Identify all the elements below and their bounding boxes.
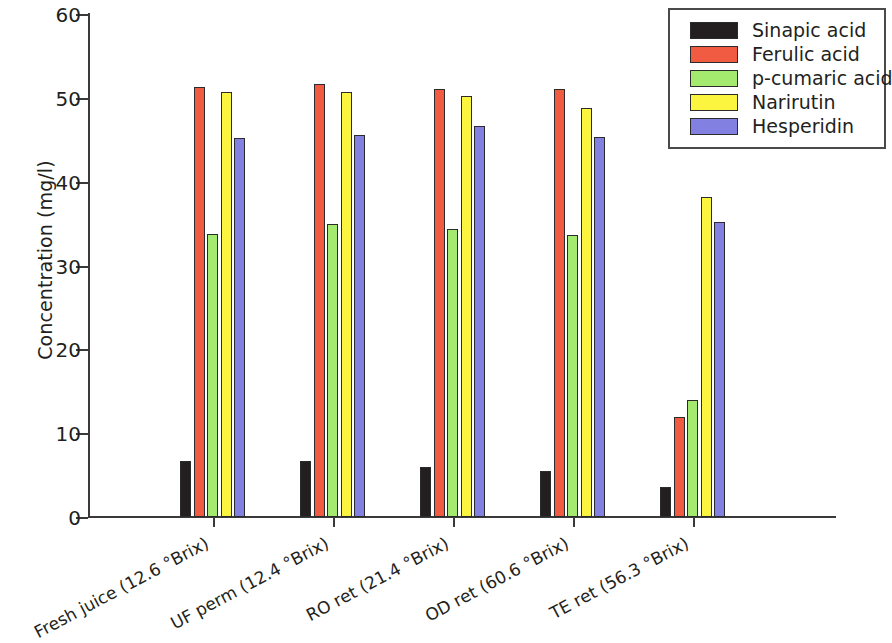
- y-axis-tick-label: 20: [56, 340, 81, 360]
- x-axis-tick-mark: [333, 517, 335, 527]
- bar: [674, 417, 685, 517]
- bar: [540, 471, 551, 517]
- bar: [234, 138, 245, 517]
- bar: [687, 400, 698, 517]
- bar: [461, 96, 472, 517]
- legend-item-label: Ferulic acid: [752, 45, 860, 64]
- bar: [567, 235, 578, 517]
- x-axis-tick-mark: [213, 517, 215, 527]
- legend-color-swatch: [690, 22, 738, 39]
- legend-item-label: Sinapic acid: [752, 21, 866, 40]
- bar-chart-figure: Concentration (mg/l) 0102030405060 Fresh…: [0, 0, 892, 643]
- bar: [660, 487, 671, 517]
- bar: [474, 126, 485, 518]
- chart-legend: Sinapic acidFerulic acidp-cumaric acidNa…: [668, 8, 886, 149]
- bar: [300, 461, 311, 517]
- bar: [714, 222, 725, 517]
- bar: [221, 92, 232, 517]
- y-axis-tick-label: 60: [56, 5, 81, 25]
- bar: [447, 229, 458, 517]
- legend-item: Sinapic acid: [690, 18, 884, 42]
- x-axis-tick-mark: [693, 517, 695, 527]
- y-axis-tick-label: 10: [56, 424, 81, 444]
- bar: [194, 87, 205, 517]
- bar: [327, 224, 338, 517]
- x-axis-tick-mark: [573, 517, 575, 527]
- bar: [180, 461, 191, 517]
- y-axis-tick-label: 0: [68, 508, 81, 528]
- legend-color-swatch: [690, 46, 738, 63]
- bar: [554, 89, 565, 517]
- bar: [341, 92, 352, 517]
- bar: [701, 197, 712, 517]
- bar: [354, 135, 365, 517]
- x-axis-tick-mark: [453, 517, 455, 527]
- bar: [207, 234, 218, 517]
- bar: [420, 467, 431, 517]
- legend-item: Hesperidin: [690, 114, 884, 138]
- legend-item: Narirutin: [690, 90, 884, 114]
- legend-item-label: Hesperidin: [752, 117, 854, 136]
- y-axis-tick-label: 50: [56, 89, 81, 109]
- legend-color-swatch: [690, 70, 738, 87]
- legend-item: Ferulic acid: [690, 42, 884, 66]
- legend-item-label: p-cumaric acid: [752, 69, 892, 88]
- legend-item: p-cumaric acid: [690, 66, 884, 90]
- bar: [581, 108, 592, 517]
- legend-color-swatch: [690, 94, 738, 111]
- legend-item-label: Narirutin: [752, 93, 836, 112]
- y-axis-tick-label: 30: [56, 257, 81, 277]
- bar: [594, 137, 605, 517]
- y-axis-tick-label: 40: [56, 173, 81, 193]
- bar: [434, 89, 445, 517]
- bar: [314, 84, 325, 517]
- legend-color-swatch: [690, 118, 738, 135]
